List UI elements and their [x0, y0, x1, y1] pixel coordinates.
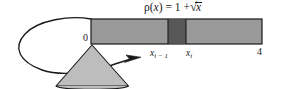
arrowhead-icon	[125, 55, 142, 63]
sqrt-vinculum	[195, 2, 202, 3]
rod-density-cone-figure: ρ(x) = 1 +√x 0 4 xi − 1 xi	[0, 0, 281, 89]
axis-label-right: 4	[257, 47, 262, 57]
highlighted-subinterval	[168, 20, 186, 44]
formula-one: 1	[175, 1, 181, 13]
partition-left-subscript: i − 1	[154, 52, 168, 60]
density-formula: ρ(x) = 1 +√x	[144, 1, 201, 14]
figure-canvas	[0, 0, 281, 89]
formula-paren-close: )	[159, 1, 163, 13]
partition-label-left: xi − 1	[150, 49, 168, 60]
density-rod	[91, 19, 262, 44]
partition-label-right: xi	[186, 49, 192, 60]
axis-label-left: 0	[83, 33, 88, 43]
cone-solid	[56, 45, 129, 89]
formula-sqrt-group: √x	[190, 1, 201, 14]
partition-right-subscript: i	[190, 52, 192, 60]
formula-equals: =	[165, 1, 172, 13]
